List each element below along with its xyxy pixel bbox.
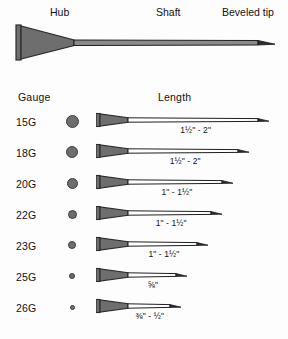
hub-cone-icon (100, 300, 128, 312)
gauge-label: 15G (16, 116, 36, 128)
gauge-label: 23G (16, 240, 36, 252)
hub-flange-icon (96, 238, 100, 251)
gauge-label: 18G (16, 147, 36, 159)
table-row: 25G⅝" (0, 263, 288, 294)
table-row: 15G1½" - 2" (0, 108, 288, 139)
gauge-diameter-dot-icon (68, 241, 76, 249)
beveled-tip-icon (222, 181, 233, 184)
anatomy-needle-graphic (0, 20, 288, 64)
hub-cone-icon (100, 238, 128, 250)
beveled-tip-icon (238, 150, 249, 153)
anatomy-label-shaft: Shaft (156, 6, 181, 18)
shaft-icon (128, 242, 197, 246)
shaft-icon (128, 304, 170, 308)
shaft-icon (128, 149, 238, 153)
hub-cone-icon (100, 176, 128, 188)
gauge-diameter-dot-icon (69, 273, 75, 279)
needle-length-label: 1" - 1½" (148, 249, 179, 259)
hub-cone-icon (100, 269, 128, 281)
anatomy-label-hub: Hub (50, 6, 69, 18)
needle-length-label: 1" - 1½" (161, 187, 192, 197)
gauge-label: 25G (16, 271, 36, 283)
beveled-tip-icon (176, 274, 187, 277)
gauge-diameter-dot-icon (66, 115, 79, 128)
gauge-diameter-cell (58, 108, 86, 134)
hub-cone-icon (21, 26, 74, 59)
needle-length-label: 1" - 1½" (156, 218, 187, 228)
hub-flange-icon (96, 300, 100, 313)
beveled-tip-icon (258, 119, 269, 122)
hub-flange-icon (96, 145, 100, 158)
needle-cell: 1½" - 2" (96, 108, 288, 134)
beveled-tip-icon (197, 243, 208, 246)
table-row: 23G1" - 1½" (0, 232, 288, 263)
hub-flange-icon (16, 25, 21, 60)
column-header-length: Length (158, 92, 191, 103)
needle-length-label: 1½" - 2" (180, 125, 211, 135)
gauge-diameter-dot-icon (66, 146, 78, 158)
hub-cone-icon (100, 207, 128, 219)
gauge-diameter-cell (58, 201, 86, 227)
gauge-table: 15G1½" - 2"18G1½" - 2"20G1" - 1½"22G1" -… (0, 108, 288, 325)
needle-length-label: 1½" - 2" (170, 156, 201, 166)
table-row: 26G⅜" - ½" (0, 294, 288, 325)
needle-cell: 1½" - 2" (96, 139, 288, 165)
needle-graphic (96, 294, 288, 320)
needle-graphic (96, 232, 288, 258)
gauge-diameter-cell (58, 232, 86, 258)
hub-cone-icon (100, 145, 128, 157)
table-row: 18G1½" - 2" (0, 139, 288, 170)
gauge-diameter-cell (58, 139, 86, 165)
gauge-label: 20G (16, 178, 36, 190)
gauge-diameter-dot-icon (67, 178, 78, 189)
needle-cell: ⅜" - ½" (96, 294, 288, 320)
gauge-label: 22G (16, 209, 36, 221)
hub-flange-icon (96, 176, 100, 189)
needle-graphic (96, 201, 288, 227)
shaft-icon (128, 273, 176, 277)
needle-anatomy-diagram: Hub Shaft Beveled tip (0, 0, 288, 78)
table-row: 22G1" - 1½" (0, 201, 288, 232)
hub-cone-icon (100, 114, 128, 126)
hub-flange-icon (96, 114, 100, 127)
anatomy-label-beveled-tip: Beveled tip (222, 6, 274, 18)
column-header-gauge: Gauge (18, 92, 51, 103)
hub-flange-icon (96, 269, 100, 282)
gauge-diameter-dot-icon (70, 305, 75, 310)
needle-cell: 1" - 1½" (96, 201, 288, 227)
shaft-icon (128, 180, 222, 184)
gauge-diameter-cell (58, 294, 86, 320)
shaft-icon (128, 118, 258, 122)
hub-flange-icon (96, 207, 100, 220)
gauge-label: 26G (16, 302, 36, 314)
needle-cell: ⅝" (96, 263, 288, 289)
gauge-diameter-cell (58, 170, 86, 196)
needle-cell: 1" - 1½" (96, 232, 288, 258)
shaft-icon (74, 40, 258, 46)
beveled-tip-icon (211, 212, 222, 215)
beveled-tip-icon (170, 305, 181, 308)
gauge-diameter-cell (58, 263, 86, 289)
needle-length-label: ⅝" (148, 280, 158, 290)
beveled-tip-icon (258, 41, 275, 46)
shaft-icon (128, 211, 211, 215)
needle-length-label: ⅜" - ½" (136, 311, 164, 321)
table-row: 20G1" - 1½" (0, 170, 288, 201)
needle-graphic (96, 263, 288, 289)
needle-cell: 1" - 1½" (96, 170, 288, 196)
gauge-diameter-dot-icon (68, 210, 77, 219)
